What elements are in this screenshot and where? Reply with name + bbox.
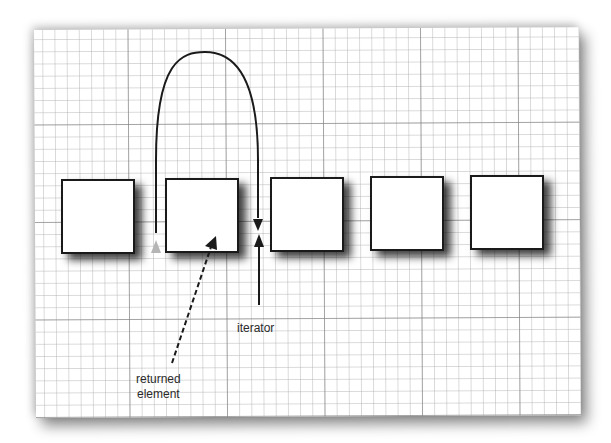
- returned-element-label: returned element: [136, 372, 181, 402]
- returned-element-label-line2: element: [136, 387, 181, 402]
- list-node-4: [370, 176, 444, 251]
- list-node-3: [270, 177, 344, 252]
- list-node-2-returned-element: [165, 178, 239, 253]
- list-node-5: [470, 175, 544, 250]
- iterator-label: iterator: [237, 321, 274, 336]
- list-node-1: [61, 179, 135, 254]
- returned-element-label-line1: returned: [136, 372, 181, 387]
